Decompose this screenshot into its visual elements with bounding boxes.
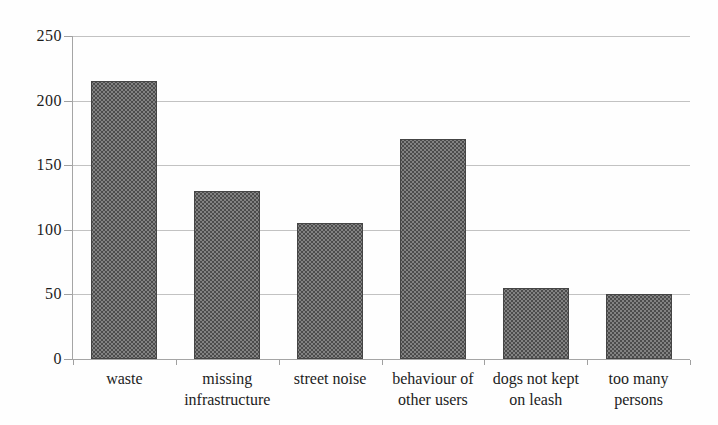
- bar-too-many-persons: [606, 294, 672, 359]
- gridline-200: [73, 101, 690, 102]
- x-tick-2: [279, 360, 280, 365]
- bar-dogs-not-kept-on-leash: [503, 288, 569, 359]
- gridline-100: [73, 230, 690, 231]
- bar-missing-infrastructure: [194, 191, 260, 359]
- y-tick-label-200: 200: [20, 91, 62, 111]
- x-label-behaviour-of-other-users: behaviour of other users: [378, 368, 489, 410]
- x-label-missing-infrastructure: missing infrastructure: [172, 368, 283, 410]
- gridline-50: [73, 294, 690, 295]
- y-tick-label-0: 0: [20, 349, 62, 369]
- gridline-150: [73, 165, 690, 166]
- gridline-250: [73, 36, 690, 37]
- bar-chart-figure: 050100150200250wastemissing infrastructu…: [0, 0, 718, 425]
- y-tick-label-100: 100: [20, 220, 62, 240]
- x-tick-6: [690, 360, 691, 365]
- x-tick-0: [73, 360, 74, 365]
- bar-behaviour-of-other-users: [400, 139, 466, 359]
- y-tick-label-150: 150: [20, 155, 62, 175]
- plot-area: [73, 36, 690, 359]
- x-tick-3: [382, 360, 383, 365]
- x-label-street-noise: street noise: [275, 368, 386, 389]
- x-tick-5: [587, 360, 588, 365]
- bar-waste: [91, 81, 157, 359]
- y-tick-label-250: 250: [20, 26, 62, 46]
- x-label-dogs-not-kept-on-leash: dogs not kept on leash: [480, 368, 591, 410]
- bar-street-noise: [297, 223, 363, 359]
- x-tick-1: [176, 360, 177, 365]
- y-tick-label-50: 50: [20, 284, 62, 304]
- x-label-waste: waste: [69, 368, 180, 389]
- x-label-too-many-persons: too many persons: [583, 368, 694, 410]
- x-tick-4: [484, 360, 485, 365]
- y-axis-line: [72, 36, 73, 360]
